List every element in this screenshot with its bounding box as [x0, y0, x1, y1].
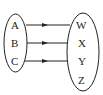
codomain-element-x: X	[78, 37, 86, 49]
domain-element-b: B	[11, 37, 18, 49]
mapping-b-x	[27, 41, 68, 45]
mapping-a-w	[26, 23, 70, 27]
codomain-element-z: Z	[78, 74, 85, 86]
codomain-element-y: Y	[78, 55, 86, 67]
domain-element-a: A	[11, 19, 19, 31]
codomain-element-w: W	[76, 19, 87, 31]
mapping-diagram: A B C W X Y Z	[0, 0, 103, 95]
mapping-c-y	[25, 59, 68, 63]
domain-element-c: C	[11, 55, 18, 67]
